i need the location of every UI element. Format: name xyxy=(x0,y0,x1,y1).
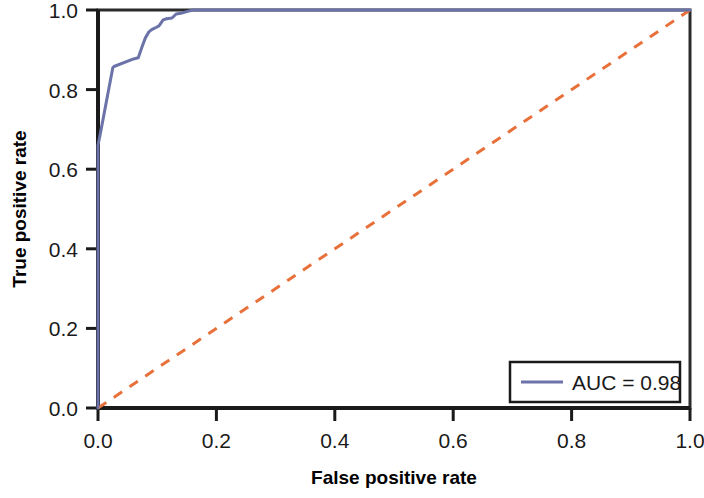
x-tick-label-2: 0.4 xyxy=(320,429,350,452)
x-axis-title: False positive rate xyxy=(311,467,477,488)
y-axis-title: True positive rate xyxy=(9,130,30,287)
chance-reference-line xyxy=(98,10,690,408)
y-tick-label-4: 0.8 xyxy=(49,79,78,102)
y-tick-label-2: 0.4 xyxy=(49,238,79,261)
x-tick-label-4: 0.8 xyxy=(557,429,586,452)
y-tick-label-5: 1.0 xyxy=(49,0,78,22)
x-tick-label-3: 0.6 xyxy=(439,429,468,452)
x-tick-label-5: 1.0 xyxy=(675,429,704,452)
roc-plot-svg: 0.0 0.2 0.4 0.6 0.8 1.0 0.0 0.2 0.4 0.6 … xyxy=(0,0,704,498)
y-tick-label-0: 0.0 xyxy=(49,397,78,420)
plot-frame xyxy=(98,10,690,408)
roc-curve-line xyxy=(98,10,690,408)
x-tick-label-1: 0.2 xyxy=(202,429,231,452)
legend-label-auc: AUC = 0.98 xyxy=(572,371,681,394)
y-tick-label-3: 0.6 xyxy=(49,158,78,181)
roc-chart-figure: 0.0 0.2 0.4 0.6 0.8 1.0 0.0 0.2 0.4 0.6 … xyxy=(0,0,704,498)
legend: AUC = 0.98 xyxy=(510,362,681,402)
x-tick-label-0: 0.0 xyxy=(83,429,112,452)
y-tick-label-1: 0.2 xyxy=(49,317,78,340)
